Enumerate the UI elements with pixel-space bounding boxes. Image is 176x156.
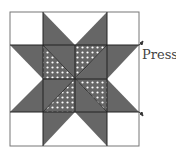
press-arrow-down-icon [139,112,143,116]
quilt-block-diagram [0,0,176,156]
press-arrow-up-icon [139,41,143,45]
press-label: Press [142,48,176,61]
